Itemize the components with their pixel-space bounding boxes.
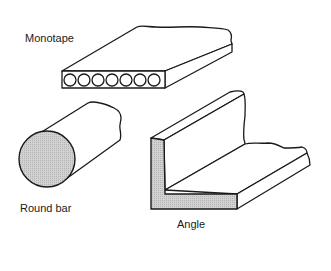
round-bar-cross-section — [19, 131, 75, 187]
monotape-label: Monotape — [25, 33, 74, 44]
round-bar-label: Round bar — [20, 203, 71, 214]
angle-label: Angle — [177, 219, 205, 230]
material-forms-diagram: Monotape Round bar Angle — [0, 0, 331, 271]
angle-shape — [151, 91, 310, 209]
monotape-shape — [62, 26, 232, 88]
round-bar-shape — [19, 102, 121, 187]
